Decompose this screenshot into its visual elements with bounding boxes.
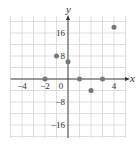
scatter-chart: −4−204168−8−16 x y xyxy=(0,0,140,148)
x-tick-label: −2 xyxy=(40,81,50,91)
data-point xyxy=(54,54,59,59)
y-tick-label: 8 xyxy=(61,51,66,61)
data-point xyxy=(100,77,105,82)
data-point xyxy=(77,77,82,82)
data-point xyxy=(89,88,94,93)
x-tick-label: 4 xyxy=(112,81,117,91)
y-axis-label: y xyxy=(65,3,71,15)
x-tick-label: −4 xyxy=(17,81,27,91)
y-tick-label: −16 xyxy=(51,120,66,130)
x-axis-label: x xyxy=(129,72,135,84)
x-tick-label: 0 xyxy=(59,81,64,91)
y-tick-label: −8 xyxy=(55,97,65,107)
y-tick-label: 16 xyxy=(56,28,66,38)
axes xyxy=(11,15,131,138)
data-point xyxy=(43,77,48,82)
data-point xyxy=(66,59,71,64)
data-point xyxy=(112,25,117,30)
y-axis-arrow-icon xyxy=(66,15,70,20)
